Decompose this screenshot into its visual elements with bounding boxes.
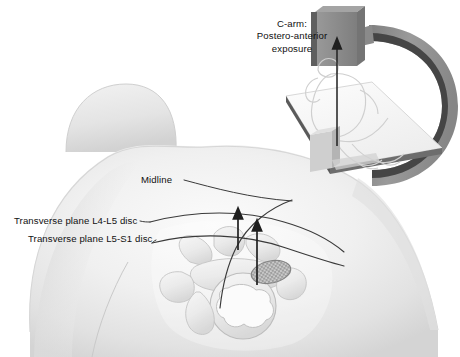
illustration-canvas: Midline Transverse plane L4-L5 disc Tran… (0, 0, 460, 357)
label-midline: Midline (141, 174, 172, 186)
head-silhouette (66, 84, 176, 152)
caption-carm-line2: Postero-anterior (240, 30, 344, 42)
caption-carm-line3: exposure (240, 43, 344, 55)
label-transverse-plane-l4-l5: Transverse plane L4-L5 disc (14, 215, 137, 227)
illustration-artwork (0, 0, 460, 357)
caption-carm-line1: C-arm: (240, 18, 344, 30)
label-transverse-plane-l5-s1: Transverse plane L5-S1 disc (28, 233, 152, 245)
caption-carm: C-arm: Postero-anterior exposure (240, 18, 344, 55)
skin-overlay (151, 220, 332, 350)
